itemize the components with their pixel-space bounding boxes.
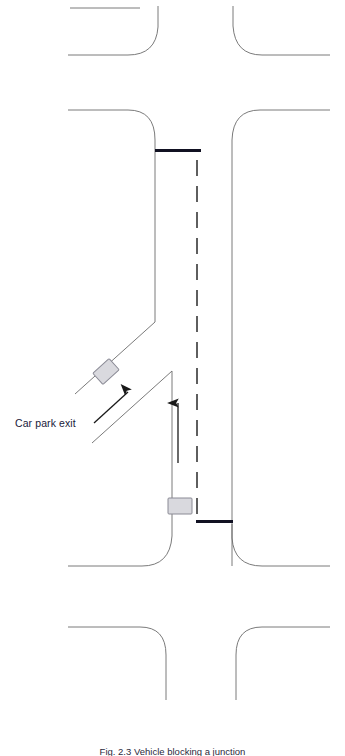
car-park-exit-label: Car park exit (15, 417, 76, 429)
lower-road-right-kerb-upper (232, 524, 330, 566)
upper-road-right-kerb-lower (232, 110, 330, 152)
car-park-exit-upper-kerb (75, 322, 155, 394)
upper-road-right-kerb-upper (233, 6, 330, 55)
lower-road-right-kerb-lower (236, 627, 330, 700)
upper-road-left-kerb-lower (68, 110, 155, 150)
upper-road-left-kerb-upper (68, 6, 158, 55)
figure-caption: Fig. 2.3 Vehicle blocking a junction (0, 746, 345, 756)
road-layout-figure: Car park exit Fig. 2.3 Vehicle blocking … (0, 0, 345, 756)
car-park-exit-direction-arrow (94, 392, 128, 423)
upper-cross-road-group (68, 6, 330, 152)
car-park-exit-road-group (75, 322, 172, 443)
road-diagram-canvas (0, 0, 345, 756)
vehicle-blocking-group (168, 498, 192, 514)
lower-road-left-kerb-upper (68, 522, 172, 566)
stop-lines-group (155, 151, 233, 522)
lower-road-left-kerb-lower (68, 627, 166, 700)
vehicle-on-exit-group (93, 359, 119, 385)
vehicle-on-car-park-exit (93, 359, 119, 385)
vehicle-blocking-junction (168, 498, 192, 514)
main-carriageway-group (155, 150, 232, 566)
lower-cross-road-group (68, 522, 330, 700)
car-park-exit-arrow-group (94, 392, 128, 423)
